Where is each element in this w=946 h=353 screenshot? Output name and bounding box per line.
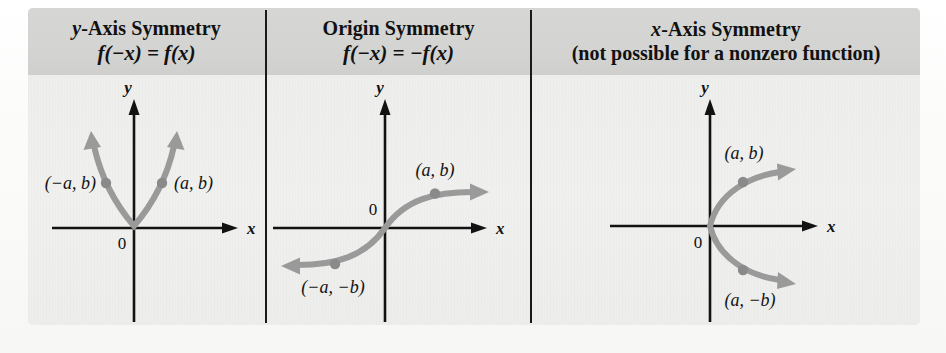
curve-arrowhead-right bbox=[167, 131, 185, 150]
header-title-italic-part: x bbox=[651, 18, 661, 40]
point-label-upper: (a, b) bbox=[725, 143, 764, 164]
y-axis-label: y bbox=[374, 78, 384, 97]
origin-label: 0 bbox=[369, 200, 378, 219]
header-cell-x-axis-symmetry: x-Axis Symmetry (not possible for a nonz… bbox=[532, 8, 920, 75]
origin-label: 0 bbox=[694, 233, 703, 252]
header-title-y-axis-symmetry: y-Axis Symmetry bbox=[72, 17, 221, 40]
curve-arrowhead-right bbox=[470, 184, 489, 201]
y-axis-arrowhead bbox=[380, 99, 391, 115]
header-title-rest-part: Origin Symmetry bbox=[322, 17, 474, 39]
graph-panel-x-axis-symmetry: y x 0 (a, b) (a, −b) bbox=[532, 75, 920, 325]
header-cell-origin-symmetry: Origin Symmetry f(−x) = −f(x) bbox=[267, 8, 530, 75]
x-axis-arrowhead bbox=[471, 223, 487, 234]
header-title-rest-part: -Axis Symmetry bbox=[661, 18, 801, 40]
point-label-lower: (a, −b) bbox=[724, 290, 775, 311]
y-axis-label: y bbox=[122, 78, 132, 97]
header-formula-origin-symmetry: f(−x) = −f(x) bbox=[343, 42, 454, 66]
point-label-left: (−a, b) bbox=[45, 173, 96, 194]
y-axis-arrowhead bbox=[129, 99, 140, 115]
marked-point-upper bbox=[738, 177, 748, 187]
curve-arrowhead-left bbox=[84, 131, 102, 150]
y-axis-arrowhead bbox=[705, 99, 716, 115]
x-axis-label: x bbox=[246, 219, 256, 238]
marked-point-lower-left bbox=[330, 259, 340, 269]
marked-point-upper-right bbox=[430, 188, 440, 198]
graph-panel-y-axis-symmetry: y x 0 bbox=[28, 75, 265, 325]
x-axis-group: x bbox=[52, 219, 256, 238]
header-cell-y-axis-symmetry: y-Axis Symmetry f(−x) = f(x) bbox=[28, 8, 265, 75]
x-axis-group: x bbox=[610, 217, 836, 236]
symmetry-table: y-Axis Symmetry f(−x) = f(x) Origin Symm… bbox=[28, 8, 920, 325]
point-label-right: (a, b) bbox=[174, 173, 213, 194]
y-axis-group: y bbox=[122, 78, 139, 322]
marked-point-right bbox=[157, 178, 167, 188]
x-axis-arrowhead bbox=[222, 223, 238, 234]
x-axis-label: x bbox=[826, 217, 836, 236]
x-axis-label: x bbox=[495, 219, 505, 238]
marked-point-lower bbox=[738, 265, 748, 275]
header-title-x-axis-symmetry: x-Axis Symmetry bbox=[651, 18, 801, 41]
x-axis-arrowhead bbox=[802, 221, 818, 232]
header-subtitle-x-axis-symmetry: (not possible for a nonzero function) bbox=[572, 42, 881, 65]
header-formula-y-axis-symmetry: f(−x) = f(x) bbox=[97, 42, 195, 66]
header-title-origin-symmetry: Origin Symmetry bbox=[322, 17, 474, 40]
curve-arrowhead-left bbox=[281, 258, 300, 275]
point-label-upper-right: (a, b) bbox=[416, 160, 455, 181]
header-title-italic-part: y bbox=[72, 17, 81, 39]
header-title-rest-part: -Axis Symmetry bbox=[81, 17, 221, 39]
y-axis-group: y bbox=[699, 78, 715, 322]
y-axis-label: y bbox=[699, 78, 709, 97]
curve-arrowhead-upper bbox=[777, 164, 796, 181]
origin-label: 0 bbox=[118, 234, 127, 253]
marked-point-left bbox=[101, 178, 111, 188]
point-label-lower-left: (−a, −b) bbox=[301, 277, 364, 298]
page-background: y-Axis Symmetry f(−x) = f(x) Origin Symm… bbox=[0, 0, 946, 353]
curve-arrowhead-lower bbox=[777, 272, 796, 289]
graph-panel-origin-symmetry: y x 0 (a, b) (−a, −b) bbox=[267, 75, 530, 325]
